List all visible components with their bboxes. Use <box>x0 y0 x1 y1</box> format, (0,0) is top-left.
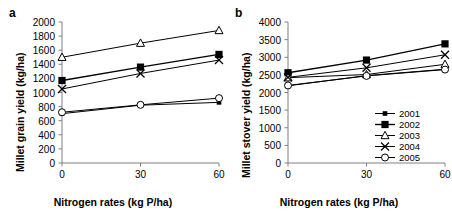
x-tick-label: 0 <box>59 169 65 180</box>
x-tick-label: 60 <box>439 169 450 180</box>
legend-item-2001: 2001 <box>374 108 420 119</box>
x-tick-label: 60 <box>213 169 224 180</box>
legend-item-2005: 2005 <box>374 152 420 163</box>
data-point-2002 <box>441 40 448 47</box>
y-tick-label: 3500 <box>226 34 281 45</box>
y-tick-label: 1500 <box>226 105 281 116</box>
data-point-2002 <box>137 64 144 71</box>
y-tick-label: 1400 <box>0 59 55 70</box>
legend-label-2004: 2004 <box>396 141 420 152</box>
x-tick-label: 0 <box>285 169 291 180</box>
data-point-2005 <box>137 101 144 108</box>
legend-glyph-2001 <box>383 111 388 116</box>
x-tick-label: 30 <box>361 169 372 180</box>
chart-panel-b: b Millet stover yield (kg/ha) Nitrogen r… <box>226 0 452 222</box>
y-tick-label: 800 <box>0 101 55 112</box>
legend-label-2005: 2005 <box>396 152 420 163</box>
y-tick-label: 1000 <box>226 122 281 133</box>
y-tick-label: 400 <box>0 129 55 140</box>
y-tick-label: 0 <box>226 158 281 169</box>
legend-marker-2004 <box>374 141 396 152</box>
y-tick-label: 600 <box>0 115 55 126</box>
legend: 20012002200320042005 <box>374 108 420 163</box>
figure-root: a Millet grain yield (kg/ha) Nitrogen ra… <box>0 0 452 222</box>
y-tick-label: 1800 <box>0 31 55 42</box>
legend-label-2001: 2001 <box>396 108 420 119</box>
legend-marker-2001 <box>374 108 396 119</box>
y-tick-label: 3000 <box>226 52 281 63</box>
y-tick-label: 2000 <box>0 17 55 28</box>
y-tick-label: 2000 <box>226 87 281 98</box>
x-tick-label: 30 <box>135 169 146 180</box>
data-point-2002 <box>363 56 370 63</box>
y-tick-label: 1000 <box>0 87 55 98</box>
data-point-2005 <box>216 95 223 102</box>
legend-glyph-2005 <box>382 154 389 161</box>
data-point-2005 <box>59 109 66 116</box>
chart-panel-a: a Millet grain yield (kg/ha) Nitrogen ra… <box>0 0 226 222</box>
data-point-2005 <box>285 82 292 89</box>
legend-glyph-2002 <box>381 121 388 128</box>
data-point-2002 <box>58 77 65 84</box>
legend-item-2004: 2004 <box>374 141 420 152</box>
legend-marker-2003 <box>374 130 396 141</box>
y-tick-label: 200 <box>0 143 55 154</box>
y-tick-label: 1200 <box>0 73 55 84</box>
y-tick-label: 4000 <box>226 17 281 28</box>
data-point-2005 <box>363 72 370 79</box>
legend-marker-2005 <box>374 152 396 163</box>
y-tick-label: 2500 <box>226 69 281 80</box>
data-point-2005 <box>442 66 449 73</box>
legend-marker-2002 <box>374 119 396 130</box>
y-tick-label: 1600 <box>0 45 55 56</box>
legend-label-2003: 2003 <box>396 130 420 141</box>
legend-label-2002: 2002 <box>396 119 420 130</box>
y-tick-label: 500 <box>226 140 281 151</box>
y-tick-label: 0 <box>0 158 55 169</box>
legend-item-2003: 2003 <box>374 130 420 141</box>
data-point-2003 <box>215 26 223 33</box>
legend-item-2002: 2002 <box>374 119 420 130</box>
